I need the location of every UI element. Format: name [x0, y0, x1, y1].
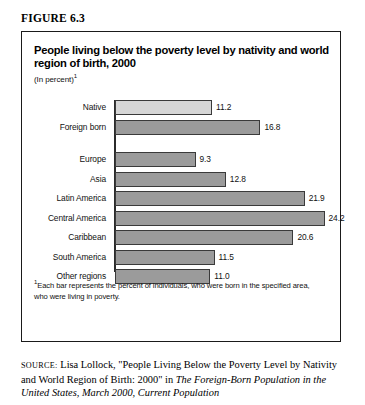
figure-number-label: FIGURE 6.3	[21, 12, 85, 24]
chart-subtitle-text: (In percent)	[34, 75, 74, 84]
bar-category-label: Native	[83, 102, 106, 112]
source-line-1: Lisa Lollock, "People Living Below the P…	[58, 359, 301, 370]
bar	[115, 250, 215, 265]
chart-subtitle: (In percent)1	[34, 75, 77, 84]
bar	[115, 211, 325, 226]
chart-footnote: 1Each bar represents the percent of indi…	[34, 281, 324, 302]
bar-category-label: Caribbean	[68, 232, 106, 242]
bar-value-label: 20.6	[297, 232, 313, 242]
bar-value-label: 11.5	[219, 252, 234, 262]
bar-row: Caribbean20.6	[22, 230, 340, 246]
bar-row: Foreign born16.8	[22, 120, 340, 136]
bar-row: Europe9.3	[22, 152, 340, 168]
source-citation: SOURCE: Lisa Lollock, "People Living Bel…	[21, 358, 343, 400]
bar	[115, 172, 226, 187]
bar	[115, 191, 305, 206]
bar-row: Central America24.2	[22, 211, 340, 227]
bar-value-label: 12.8	[230, 174, 246, 184]
bar-category-label: Central America	[48, 213, 106, 223]
figure-box: People living below the poverty level by…	[21, 31, 341, 342]
bar	[115, 100, 212, 115]
bar-row: Latin America21.9	[22, 191, 340, 207]
bar-value-label: 21.9	[309, 193, 325, 203]
source-line-2-italic: The Foreign-Born	[176, 374, 252, 385]
bar-value-label: 9.3	[200, 154, 211, 164]
chart-subtitle-footnote-marker: 1	[74, 73, 77, 79]
bar-category-label: Latin America	[57, 193, 106, 203]
bar	[115, 152, 196, 167]
bar	[115, 120, 260, 135]
bar-category-label: South America	[53, 252, 106, 262]
bar-value-label: 11.0	[214, 271, 229, 281]
bar-category-label: Foreign born	[60, 122, 106, 132]
bar-value-label: 16.8	[264, 122, 280, 132]
bar	[115, 230, 293, 245]
chart-title: People living below the poverty level by…	[34, 44, 330, 70]
bar-row: Native11.2	[22, 100, 340, 116]
bar-value-label: 11.2	[216, 102, 231, 112]
bar-chart-plot-area: Native11.2Foreign born16.8Europe9.3Asia1…	[22, 95, 340, 275]
bar-category-label: Europe	[80, 154, 106, 164]
bar-row: South America11.5	[22, 250, 340, 266]
bar-category-label: Asia	[90, 174, 106, 184]
bar-value-label: 24.2	[329, 213, 345, 223]
figure-page: FIGURE 6.3 People living below the pover…	[0, 0, 365, 405]
footnote-text: Each bar represents the percent of indiv…	[34, 281, 310, 301]
source-prefix: SOURCE:	[21, 361, 58, 370]
bar-category-label: Other regions	[57, 271, 106, 281]
bar-row: Asia12.8	[22, 172, 340, 188]
